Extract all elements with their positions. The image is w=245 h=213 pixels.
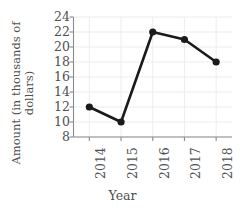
data-point-marker xyxy=(181,36,188,43)
data-point-marker xyxy=(213,58,220,65)
line-chart-figure: Amount (in thousands of dollars) 2422201… xyxy=(0,0,245,213)
data-point-marker xyxy=(117,118,124,125)
data-point-marker xyxy=(86,103,93,110)
plot-area xyxy=(0,0,245,213)
data-point-marker xyxy=(149,28,156,35)
